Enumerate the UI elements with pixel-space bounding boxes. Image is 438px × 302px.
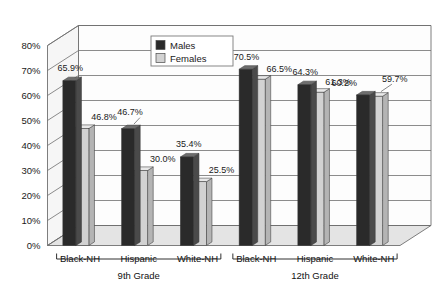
bar-value-label: 25.5%: [209, 165, 235, 175]
bar-front-face: [357, 95, 370, 246]
bar-side-face: [193, 153, 199, 245]
bar-males: [298, 81, 317, 245]
bar-front-face: [239, 69, 252, 245]
x-axis-category-label: Hispanic: [297, 253, 334, 264]
bar-value-label: 46.8%: [91, 112, 117, 122]
y-axis-tick-label: 40%: [21, 140, 41, 151]
bar-front-face: [122, 129, 135, 246]
bar-males: [357, 91, 376, 245]
bar-side-face: [135, 125, 141, 245]
bar-value-label: 59.7%: [382, 74, 408, 84]
bar-value-label: 30.0%: [150, 154, 176, 164]
legend-label-females: Females: [170, 53, 207, 64]
legend-label-males: Males: [170, 40, 196, 51]
bar-males: [122, 125, 141, 245]
bar-side-face: [206, 178, 212, 245]
bar-males: [63, 77, 82, 245]
bar-front-face: [180, 157, 193, 246]
y-axis-labels: 80%70%60%50%40%30%20%10%0%: [21, 40, 41, 251]
bar-value-label: 70.5%: [234, 52, 260, 62]
x-axis-group-label: 9th Grade: [118, 270, 160, 281]
x-axis-category-label: White-NH: [177, 253, 218, 264]
y-axis-tick-label: 20%: [21, 190, 41, 201]
legend: MalesFemales: [151, 36, 233, 66]
bar-value-label: 66.5%: [266, 64, 292, 74]
y-axis-tick-label: 70%: [21, 65, 41, 76]
bar-side-face: [89, 125, 95, 246]
bar-side-face: [265, 76, 271, 246]
x-axis-category-label: Black-NH: [236, 253, 276, 264]
bar-side-face: [324, 89, 330, 246]
grouped-3d-bar-chart: 80%70%60%50%40%30%20%10%0%65.9%46.8%46.7…: [0, 0, 438, 302]
y-axis-tick-label: 0%: [27, 240, 41, 251]
bar-side-face: [148, 167, 154, 246]
x-axis-group-label: 12th Grade: [291, 270, 339, 281]
bar-value-label: 60.2%: [331, 78, 357, 88]
bar-side-face: [370, 91, 376, 245]
y-axis-tick-label: 60%: [21, 90, 41, 101]
bar-value-label: 64.3%: [292, 67, 318, 77]
bar-value-label: 35.4%: [176, 139, 202, 149]
bar-front-face: [298, 85, 311, 246]
legend-swatch-males: [156, 41, 165, 50]
x-axis: Black-NHHispanicWhite-NHBlack-NHHispanic…: [57, 253, 398, 281]
y-axis-tick-label: 80%: [21, 40, 41, 51]
bar-males: [180, 153, 199, 245]
bar-front-face: [63, 81, 76, 246]
bar-value-label: 46.7%: [117, 107, 143, 117]
y-axis-tick-label: 30%: [21, 165, 41, 176]
chart-root: 80%70%60%50%40%30%20%10%0%65.9%46.8%46.7…: [0, 0, 438, 302]
bar-side-face: [383, 93, 389, 246]
x-axis-category-label: Black-NH: [60, 253, 100, 264]
x-axis-category-label: White-NH: [353, 253, 394, 264]
bar-side-face: [252, 66, 258, 246]
x-axis-category-label: Hispanic: [121, 253, 158, 264]
bar-side-face: [76, 77, 82, 245]
bar-value-label: 65.9%: [57, 63, 83, 73]
y-axis-tick-label: 10%: [21, 215, 41, 226]
bar-side-face: [311, 81, 317, 245]
legend-swatch-females: [156, 54, 165, 63]
y-axis-tick-label: 50%: [21, 115, 41, 126]
bar-males: [239, 66, 258, 246]
